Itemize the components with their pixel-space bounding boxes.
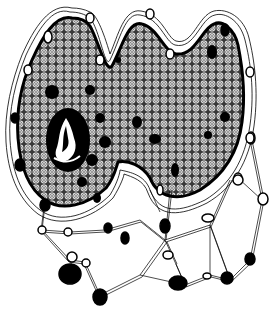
flame-motif: [46, 108, 90, 172]
ink-illustration: [0, 0, 275, 314]
